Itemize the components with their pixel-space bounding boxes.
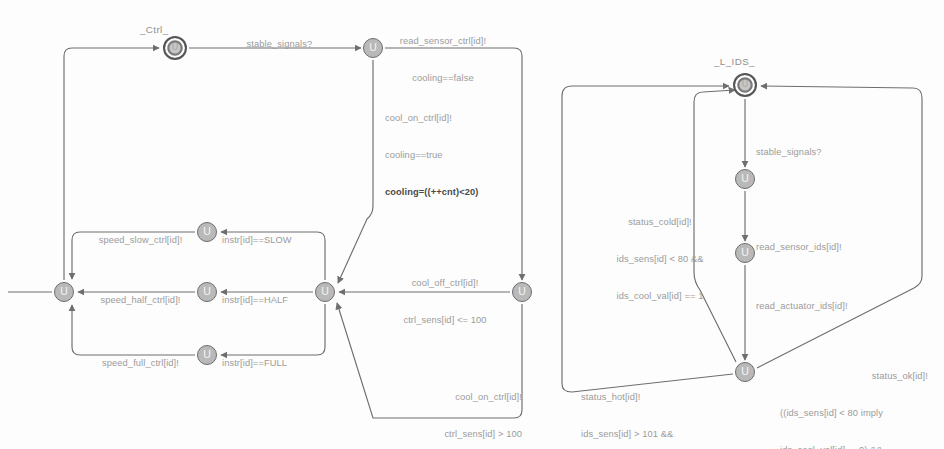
diagram-canvas: U U U U U U U U U U U U _Ctrl_ _L_IDS_ s…: [0, 0, 944, 449]
transition-label-instr-slow: instr[id]==SLOW: [222, 209, 332, 271]
urgent-glyph-icon: U: [741, 173, 749, 184]
transition-label-cool-on-gt-100: cool_on_ctrl[id]! ctrl_sens[id] > 100 co…: [370, 366, 522, 449]
location-ids-s3[interactable]: U: [735, 362, 755, 382]
urgent-glyph-icon: U: [518, 286, 526, 297]
urgent-glyph-icon: U: [742, 80, 749, 89]
automaton-name-ctrl: _Ctrl_: [140, 24, 169, 35]
transition-label-speed-slow: speed_slow_ctrl[id]!: [78, 209, 203, 271]
urgent-glyph-icon: U: [741, 247, 749, 258]
urgent-glyph-icon: U: [369, 42, 377, 53]
urgent-glyph-icon: U: [741, 366, 749, 377]
transition-label-instr-full: instr[id]==FULL: [222, 332, 332, 394]
location-ctrl-read-sensor[interactable]: U: [363, 38, 383, 58]
location-ids-s1[interactable]: U: [735, 169, 755, 189]
location-ctrl-cool[interactable]: U: [512, 282, 532, 302]
location-ctrl-initial[interactable]: U: [163, 36, 187, 60]
location-ids-s2[interactable]: U: [735, 243, 755, 263]
transition-label-speed-full: speed_full_ctrl[id]!: [78, 332, 203, 394]
transition-label-cool-on-cooling-true: cool_on_ctrl[id]! cooling==true cooling=…: [385, 87, 545, 223]
location-ctrl-left[interactable]: U: [54, 282, 74, 302]
location-ids-initial[interactable]: U: [733, 73, 757, 97]
transition-label-status-cold: status_cold[id]! ids_sens[id] < 80 && id…: [596, 191, 724, 327]
urgent-glyph-icon: U: [203, 349, 211, 360]
urgent-glyph-icon: U: [203, 226, 211, 237]
transition-label-speed-half: speed_half_ctrl[id]!: [78, 269, 203, 331]
transition-label-read-actuator-ids: read_actuator_ids[id]!: [756, 275, 894, 337]
transition-label-read-sensor-ids: read_sensor_ids[id]!: [756, 216, 884, 278]
urgent-glyph-icon: U: [60, 286, 68, 297]
urgent-glyph-icon: U: [172, 43, 179, 52]
transition-label-cool-off-ctrl: cool_off_ctrl[id]! ctrl_sens[id] <= 100: [380, 252, 510, 351]
automaton-name-ids: _L_IDS_: [714, 56, 755, 67]
edge-read-to-hub: [338, 60, 373, 283]
transition-label-instr-half: instr[id]==HALF: [222, 269, 332, 331]
transition-label-status-hot: status_hot[id]! ids_sens[id] > 101 && id…: [581, 366, 716, 449]
urgent-glyph-icon: U: [203, 286, 211, 297]
transition-label-status-ok: status_ok[id]! ((ids_sens[id] < 80 imply…: [780, 345, 944, 449]
transition-label-stable-signals: stable_signals?: [219, 26, 329, 63]
transition-label-ids-stable-signals: stable_signals?: [756, 121, 866, 183]
